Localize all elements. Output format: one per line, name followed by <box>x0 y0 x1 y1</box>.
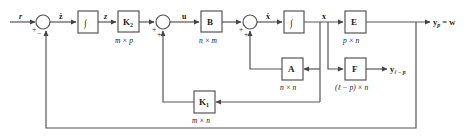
summing-junction-3 <box>243 15 257 29</box>
wire-a-out <box>250 31 282 69</box>
output-yp-label: yp= w <box>433 17 456 28</box>
integrator-block-1 <box>78 11 98 33</box>
sum3-sign-plus-2: + <box>244 30 248 39</box>
e-label: E <box>351 17 357 27</box>
summing-junction-2 <box>156 15 170 29</box>
signal-xdot-label: ẋ <box>266 12 270 21</box>
sum1-sign-plus: + <box>32 25 36 34</box>
signal-r-label: r <box>19 12 23 21</box>
sum1-sign-minus: − <box>37 29 41 38</box>
sum2-sign-plus-1: + <box>152 25 156 34</box>
wire-k1-out <box>163 31 194 102</box>
f-dimension: (ℓ − p) × n <box>335 83 368 92</box>
block-diagram: r + − ż ∫ z K2 m × p + + u B n × m + + ẋ… <box>0 0 470 138</box>
a-dimension: n × n <box>280 83 297 92</box>
sum2-sign-plus-2: + <box>157 30 161 39</box>
b-label: B <box>207 17 213 27</box>
k1-dimension: m × n <box>192 116 210 125</box>
signal-z-label: z <box>103 12 108 21</box>
output-yrest-label: yℓ − p <box>390 64 406 75</box>
signal-x-label: x <box>322 12 326 21</box>
integrator-block-2 <box>284 11 304 33</box>
signal-zdot-label: ż <box>59 12 63 21</box>
e-dimension: p × n <box>342 36 360 45</box>
summing-junction-1 <box>36 15 50 29</box>
a-label: A <box>288 64 295 74</box>
sum3-sign-plus-1: + <box>239 25 243 34</box>
signal-u-label: u <box>182 12 187 21</box>
b-dimension: n × m <box>199 36 218 45</box>
k2-dimension: m × p <box>115 36 133 45</box>
wire-x-branch-f <box>328 22 343 69</box>
f-label: F <box>352 64 358 74</box>
